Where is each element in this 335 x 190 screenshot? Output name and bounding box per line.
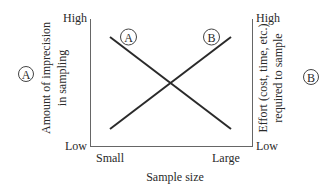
svg-text:A: A xyxy=(22,68,31,82)
right-high-label: High xyxy=(256,11,280,25)
svg-text:required to sample: required to sample xyxy=(271,33,285,122)
svg-text:B: B xyxy=(207,31,215,45)
left-axis-title: Amount of imprecision in sampling xyxy=(39,22,69,134)
svg-text:Amount of imprecision: Amount of imprecision xyxy=(39,22,53,134)
x-tick-small: Small xyxy=(96,151,125,165)
svg-text:B: B xyxy=(307,71,315,85)
right-axis-title: Effort (cost, time, etc.) required to sa… xyxy=(256,23,285,132)
right-axis-badge-b: B xyxy=(304,70,319,85)
tradeoff-diagram: A B High Low High Low Amount of imprecis… xyxy=(0,0,335,190)
curve-a-badge: A xyxy=(121,29,137,45)
x-axis-title: Sample size xyxy=(146,170,204,184)
svg-text:Effort (cost, time, etc.): Effort (cost, time, etc.) xyxy=(256,23,270,132)
right-low-label: Low xyxy=(256,139,278,153)
svg-text:A: A xyxy=(124,31,133,45)
svg-text:in sampling: in sampling xyxy=(55,50,69,106)
left-low-label: Low xyxy=(65,139,87,153)
left-axis-badge-a: A xyxy=(19,67,34,82)
x-tick-large: Large xyxy=(212,151,240,165)
curve-b-badge: B xyxy=(204,29,220,45)
left-high-label: High xyxy=(63,11,87,25)
